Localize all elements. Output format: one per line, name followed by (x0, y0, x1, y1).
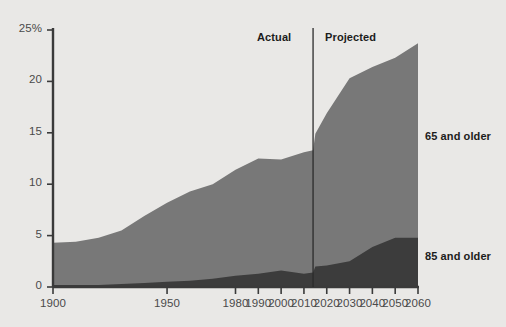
plot-area (53, 43, 418, 287)
annotation-projected: Projected (325, 31, 376, 43)
y-axis-tick-label: 20 (0, 73, 42, 85)
area-chart-canvas (0, 0, 506, 327)
y-axis-tick-label: 10 (0, 176, 42, 188)
y-axis-tick-label: 0 (0, 279, 42, 291)
area-series-65-and-older (53, 43, 418, 287)
y-axis-tick-label: 5 (0, 228, 42, 240)
series-label-85-and-older: 85 and older (425, 250, 491, 262)
x-axis-tick-label: 2060 (393, 297, 443, 309)
y-axis-tick-label: 15 (0, 125, 42, 137)
chart-container: 0510152025% 1900195019801990200020102020… (0, 0, 506, 327)
series-label-65-and-older: 65 and older (425, 130, 491, 142)
annotation-actual: Actual (257, 31, 291, 43)
x-axis-tick-label: 1950 (142, 297, 192, 309)
y-axis-tick-label: 25% (0, 22, 42, 34)
x-axis-tick-label: 1900 (28, 297, 78, 309)
